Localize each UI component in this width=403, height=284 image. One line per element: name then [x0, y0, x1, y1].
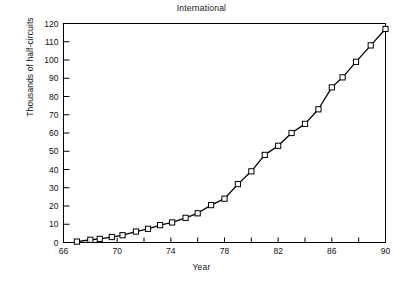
svg-text:100: 100 — [44, 55, 58, 65]
svg-text:86: 86 — [327, 246, 337, 256]
x-axis-ticks: 66707478828690 — [59, 238, 391, 256]
data-series-line — [77, 29, 386, 242]
svg-text:110: 110 — [45, 37, 59, 47]
svg-text:70: 70 — [112, 246, 122, 256]
svg-text:78: 78 — [220, 246, 230, 256]
axis-frame — [64, 24, 386, 243]
svg-text:20: 20 — [49, 201, 59, 211]
svg-text:90: 90 — [381, 246, 391, 256]
svg-text:120: 120 — [44, 19, 58, 29]
svg-text:10: 10 — [49, 219, 59, 229]
svg-text:80: 80 — [49, 92, 59, 102]
svg-text:60: 60 — [49, 128, 59, 138]
svg-text:66: 66 — [59, 246, 69, 256]
y-axis-ticks: 0102030405060708090100110120 — [44, 19, 69, 248]
data-series-markers — [74, 26, 388, 244]
chart-figure: International Thousands of half-circuits… — [0, 0, 403, 284]
svg-text:90: 90 — [49, 73, 59, 83]
svg-text:40: 40 — [49, 165, 59, 175]
svg-text:70: 70 — [49, 110, 59, 120]
plot-area: 0102030405060708090100110120 66707478828… — [0, 0, 403, 284]
svg-text:50: 50 — [49, 146, 59, 156]
svg-text:74: 74 — [166, 246, 176, 256]
svg-text:30: 30 — [49, 183, 59, 193]
svg-text:82: 82 — [273, 246, 283, 256]
